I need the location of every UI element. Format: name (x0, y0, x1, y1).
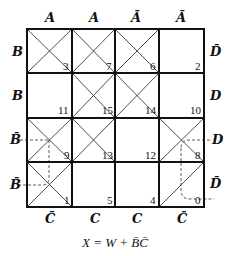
minterm-10: 10 (190, 105, 201, 116)
minterm-6: 6 (150, 61, 156, 72)
col-label-bottom-4: C̄ (177, 212, 187, 225)
row-label-right-1: D̄ (210, 45, 221, 58)
minterm-9: 9 (64, 150, 70, 161)
minterm-14: 14 (145, 105, 156, 116)
dashed-leaders (20, 140, 214, 199)
karnaugh-map-grid (0, 0, 230, 256)
col-label-top-4: Ā (176, 11, 186, 24)
minterm-1: 1 (64, 195, 70, 206)
col-label-bottom-2: C (90, 212, 100, 225)
col-label-top-2: A (89, 11, 99, 24)
row-label-left-1: B (12, 45, 23, 58)
minterm-4: 4 (150, 195, 156, 206)
minterm-3: 3 (63, 61, 69, 72)
minterm-11: 11 (58, 105, 69, 116)
minterm-12: 12 (145, 150, 156, 161)
row-label-right-2: D (210, 89, 221, 102)
col-label-top-3: Ā (131, 11, 141, 24)
row-label-left-3: B̄ (10, 133, 21, 146)
minterm-5: 5 (107, 195, 113, 206)
col-label-top-1: A (45, 11, 55, 24)
minterm-2: 2 (195, 61, 201, 72)
col-label-bottom-1: C̄ (45, 212, 55, 225)
col-label-bottom-3: C (132, 212, 142, 225)
row-label-left-2: B (12, 89, 23, 102)
row-label-right-4: D̄ (210, 177, 221, 190)
minterm-13: 13 (102, 150, 113, 161)
minterm-0: 0 (195, 195, 201, 206)
minterm-15: 15 (102, 105, 113, 116)
minterm-8: 8 (195, 150, 201, 161)
boolean-expression: X = W + B̄C̄ (0, 235, 230, 251)
row-label-left-4: B̄ (10, 178, 21, 191)
row-label-right-3: D (212, 133, 223, 146)
minterm-7: 7 (106, 61, 112, 72)
